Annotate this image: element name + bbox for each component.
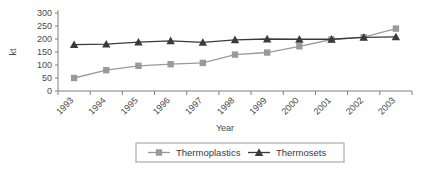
y-axis-tick-label: 150 xyxy=(37,47,52,57)
y-axis-tick-label: 300 xyxy=(37,8,52,18)
y-axis-tick-label: 0 xyxy=(47,86,52,96)
square-marker-icon xyxy=(296,43,302,49)
y-axis-title: kt xyxy=(8,48,18,56)
square-marker-icon xyxy=(264,49,270,55)
chart-legend: ThermoplasticsThermosets xyxy=(136,143,344,162)
legend-label-0: Thermoplastics xyxy=(176,147,241,158)
square-marker-icon xyxy=(167,61,173,67)
square-marker-icon xyxy=(393,25,399,31)
square-marker-icon xyxy=(156,149,162,155)
square-marker-icon xyxy=(232,51,238,57)
line-chart: 050100150200250300 199319941995199619971… xyxy=(0,0,435,172)
square-marker-icon xyxy=(103,67,109,73)
y-axis-tick-label: 50 xyxy=(42,73,52,83)
square-marker-icon xyxy=(71,75,77,81)
legend-label-1: Thermosets xyxy=(276,147,326,158)
chart-container: 050100150200250300 199319941995199619971… xyxy=(0,0,435,172)
square-marker-icon xyxy=(200,60,206,66)
square-marker-icon xyxy=(135,63,141,69)
y-axis-tick-label: 250 xyxy=(37,21,52,31)
x-axis-title: Year xyxy=(216,123,234,133)
y-axis-tick-label: 100 xyxy=(37,60,52,70)
y-axis-tick-label: 200 xyxy=(37,34,52,44)
